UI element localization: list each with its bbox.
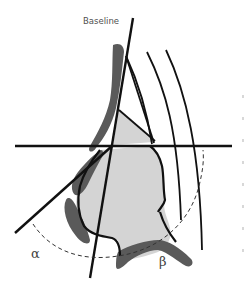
beta-label: β <box>159 254 167 269</box>
soft-tissue-region <box>76 110 170 259</box>
alpha-label: α <box>31 246 40 261</box>
page-edge-marks <box>242 95 244 265</box>
baseline-label: Baseline <box>83 16 119 26</box>
